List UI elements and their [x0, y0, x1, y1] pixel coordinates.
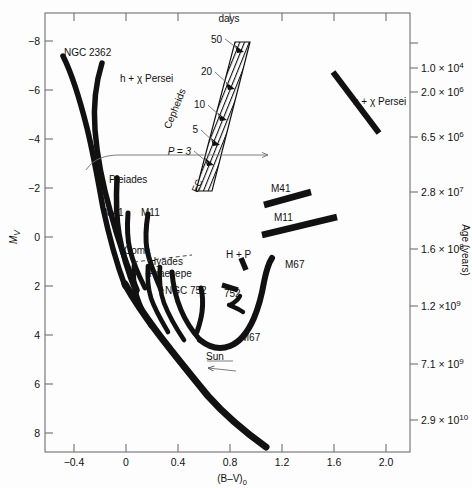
x-tick-label: 0.8	[223, 456, 238, 468]
x-tick-label: 0	[123, 456, 129, 468]
label-m41-giant: M41	[271, 183, 291, 194]
y2-tick-label: 1.6 × 108	[421, 242, 464, 255]
label-sun: Sun	[206, 351, 224, 362]
y2-axis-title: Age (years)	[460, 224, 471, 276]
bottom-axis: −0.4 0 0.4 0.8 1.2 1.6 2.0	[64, 444, 394, 468]
y2-mantissa: 1.2	[421, 300, 436, 312]
y-tick-label: −4	[28, 133, 40, 145]
y2-exponent: 9	[459, 357, 464, 366]
y2-exponent: 6	[459, 85, 464, 94]
cepheids-band-label: Cepheids	[162, 87, 188, 130]
y-axis-title: MV	[8, 229, 22, 244]
label-h-chi-persei-main: h + χ Persei	[120, 73, 173, 84]
label-ngc2362: NGC 2362	[64, 47, 112, 58]
cepheid-days-title: days	[218, 13, 239, 24]
cepheid-period-20: 20	[201, 66, 213, 77]
x-axis-title-sub: 0	[243, 478, 247, 487]
y2-tick-label: 2.9 × 1010	[421, 413, 469, 426]
cepheid-band	[196, 42, 250, 191]
cepheid-period-50: 50	[211, 34, 223, 45]
label-752-giant: 752	[224, 288, 241, 299]
y2-exponent: 4	[459, 61, 464, 70]
label-ngc752: NGC 752	[165, 285, 207, 296]
label-m41-main: M41	[104, 207, 124, 218]
svg-text:MV: MV	[8, 229, 22, 244]
y2-tick-label: 7.1 × 109	[421, 357, 464, 370]
y-tick-label: −2	[28, 182, 40, 194]
label-pleiades: Pleiades	[109, 174, 147, 185]
left-axis: −8 −6 −4 −2 0 2 4 6 8	[28, 35, 53, 439]
y-tick-label: 8	[34, 427, 40, 439]
right-axis: 1.0 × 104 2.0 × 106 6.5 × 106 2.8 × 107 …	[410, 43, 469, 426]
y2-tick-label: 1.0 × 104	[421, 61, 464, 74]
x-tick-label: 2.0	[379, 456, 394, 468]
y2-mantissa: 1.0	[421, 62, 436, 74]
y2-mantissa: 7.1	[421, 358, 436, 370]
label-hp-giant: H + P	[226, 249, 252, 260]
y2-mantissa: 6.5	[421, 131, 436, 143]
label-h-chi-persei-giant: h + χ Persei	[353, 96, 406, 107]
y2-mantissa: 2.9	[421, 414, 436, 426]
label-hyades: Hyades	[149, 256, 183, 267]
label-m67-giant: M67	[285, 259, 305, 270]
cepheid-period-5: 5	[192, 124, 198, 135]
y2-tick-label: 2.0 × 106	[421, 85, 464, 98]
y2-axis-title-text: Age (years)	[460, 224, 471, 276]
y2-exponent: 9	[456, 299, 461, 308]
y-axis-title-sub: V	[12, 229, 22, 236]
y-tick-label: 4	[34, 329, 40, 341]
x-tick-label: 1.6	[327, 456, 342, 468]
evolution-arrow	[86, 155, 268, 170]
y-tick-label: 2	[34, 280, 40, 292]
y-tick-label: 0	[34, 231, 40, 243]
sun-pointer	[207, 361, 236, 371]
y2-exponent: 6	[459, 130, 464, 139]
y2-tick-label: 1.2 ×109	[421, 299, 461, 312]
y2-mantissa: 1.6	[421, 243, 436, 255]
label-praesepe: Praesepe	[149, 268, 192, 279]
x-tick-label: −0.4	[64, 456, 85, 468]
y-tick-label: 6	[34, 378, 40, 390]
main-sequence-trunk	[125, 284, 266, 447]
y2-tick-label: 2.8 × 107	[421, 185, 464, 198]
label-m11-giant: M11	[274, 212, 293, 223]
cepheids-band-label-text: Cepheids	[162, 87, 188, 130]
y2-mantissa: 2.8	[421, 186, 436, 198]
cepheid-instability-strip	[196, 42, 250, 191]
hr-diagram-svg: −8 −6 −4 −2 0 2 4 6 8 MV −0.4 0 0.4 0.8 …	[0, 0, 472, 488]
label-coma: Coma	[124, 245, 151, 256]
label-m67-main: .M67	[238, 332, 261, 343]
y2-exponent: 10	[459, 413, 468, 422]
cepheid-period-10: 10	[194, 99, 206, 110]
y-tick-label: −8	[28, 35, 40, 47]
track-752-spur	[229, 305, 243, 312]
x-tick-label: 0.4	[171, 456, 186, 468]
y-tick-label: −6	[28, 84, 40, 96]
y2-tick-label: 6.5 × 106	[421, 130, 464, 143]
x-tick-label: 1.2	[275, 456, 290, 468]
y2-exponent: 7	[459, 185, 464, 194]
label-m11-main: M11	[141, 207, 160, 218]
x-axis-title: (B–V)0	[217, 473, 247, 487]
hr-diagram-figure: −8 −6 −4 −2 0 2 4 6 8 MV −0.4 0 0.4 0.8 …	[0, 0, 472, 488]
y2-mantissa: 2.0	[421, 86, 436, 98]
x-axis-title-main: (B–V)	[217, 473, 243, 484]
